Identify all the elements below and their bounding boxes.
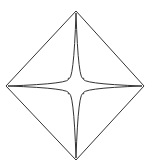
diamond-star-figure: [0, 0, 159, 168]
figure-background: [0, 0, 159, 168]
